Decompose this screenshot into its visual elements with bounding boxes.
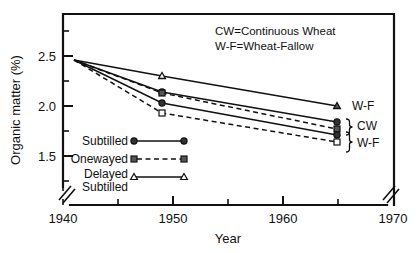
y-tick-label-2-5: 2.5 — [38, 49, 56, 64]
legend-label-onewayed: Onewayed — [71, 152, 128, 166]
y-tick-label-1-5: 1.5 — [38, 149, 56, 164]
y-tick-label-2-0: 2.0 — [38, 99, 56, 114]
data-point-marker — [334, 126, 340, 132]
end-label-wf-bottom: W-F — [357, 136, 379, 150]
x-tick-label-1970: 1970 — [379, 211, 408, 226]
legend-label-delayed-line2: Subtilled — [82, 180, 128, 194]
data-point-marker — [159, 90, 165, 96]
x-tick-label-1950: 1950 — [159, 211, 188, 226]
chart-figure: 2.5 2.0 1.5 Organic matter (%) 1940 1950… — [0, 0, 419, 253]
annotation-wf: W-F=Wheat-Fallow — [215, 40, 314, 52]
legend-marker-circle — [131, 138, 137, 144]
legend-marker-square — [181, 156, 187, 162]
data-point-marker — [334, 132, 340, 138]
y-axis-title: Organic matter (%) — [8, 55, 23, 165]
end-label-cw: CW — [357, 119, 378, 133]
data-point-marker — [159, 110, 165, 116]
legend-marker-square — [131, 156, 137, 162]
data-point-marker — [159, 100, 165, 106]
organic-matter-line-chart: 2.5 2.0 1.5 Organic matter (%) 1940 1950… — [0, 0, 419, 253]
legend-label-subtilled: Subtilled — [82, 134, 128, 148]
legend-marker-circle — [181, 138, 187, 144]
x-tick-label-1960: 1960 — [269, 211, 298, 226]
data-point-marker — [334, 119, 340, 125]
legend-label-delayed: Delayed — [84, 167, 128, 181]
end-label-wf-top: W-F — [352, 99, 374, 113]
annotation-cw: CW=Continuous Wheat — [215, 25, 336, 37]
x-axis-title: Year — [215, 231, 242, 246]
data-point-marker — [334, 139, 340, 145]
x-tick-label-1940: 1940 — [49, 211, 78, 226]
